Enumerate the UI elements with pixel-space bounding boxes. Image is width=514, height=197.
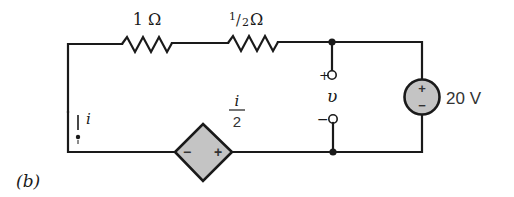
- current-arrow-icon: [76, 115, 80, 144]
- voltage-source-label: 20 V: [446, 89, 482, 108]
- wire-top-right: [278, 42, 422, 79]
- resistor-half-ohm: [228, 36, 278, 51]
- svg-text:/: /: [236, 12, 241, 28]
- terminal-plus-sign: +: [319, 68, 330, 83]
- dependent-source-label: i 2: [229, 92, 245, 130]
- svg-text:i: i: [235, 92, 240, 110]
- voltage-v-label: υ: [327, 86, 337, 106]
- svg-text:Ω: Ω: [250, 10, 263, 29]
- dependent-source-plus: +: [214, 144, 222, 160]
- svg-text:2: 2: [242, 16, 249, 29]
- resistor-1-label: 1 Ω: [133, 10, 162, 29]
- figure-label: (b): [16, 171, 40, 191]
- terminal-minus-sign: −: [317, 111, 329, 127]
- wire-bottom-left: [68, 112, 175, 152]
- resistor-half-label: 1 / 2 Ω: [229, 10, 263, 29]
- current-i-label: i: [86, 110, 91, 128]
- dependent-source-minus: −: [183, 144, 191, 160]
- wire-top-left: [68, 44, 122, 112]
- circuit-diagram: 1 Ω 1 / 2 Ω + υ − + − 20 V − + i 2: [0, 0, 514, 197]
- voltage-source-minus: −: [418, 98, 426, 113]
- svg-text:2: 2: [233, 113, 241, 130]
- voltage-source-plus: +: [418, 81, 426, 96]
- svg-text:1: 1: [229, 10, 236, 23]
- resistor-1-ohm: [122, 37, 172, 52]
